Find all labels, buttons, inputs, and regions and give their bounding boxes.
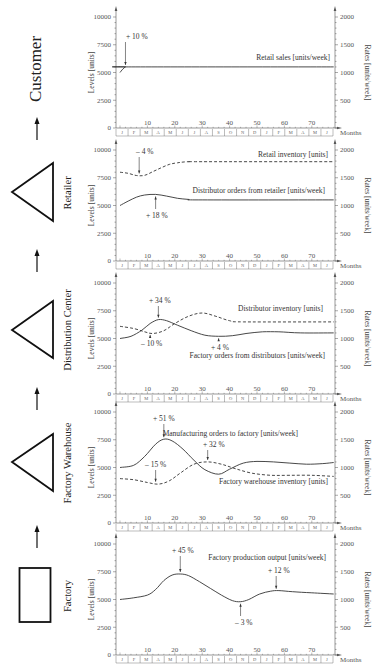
month-letter: M (289, 130, 293, 135)
month-letter: D (253, 263, 257, 268)
x-axis-title: Months (340, 129, 362, 137)
left-tick-label: 2500 (97, 97, 112, 105)
axis-arrow-icon (115, 272, 118, 277)
month-letter: J (326, 130, 328, 135)
chart-panel-distribution-center: 025005000750010000500100015002000Levels … (87, 272, 372, 403)
month-letter: D (253, 396, 257, 401)
series-label: Retail inventory [units] (258, 150, 328, 159)
month-letter: M (289, 657, 293, 662)
month-letter: J (266, 396, 268, 401)
axis-arrow-icon (334, 139, 337, 144)
axis-arrow-icon (115, 6, 118, 11)
chart-panel-retailer: 025005000750010000500100015002000Levels … (87, 139, 372, 270)
month-letter: O (229, 263, 233, 268)
month-letter: O (229, 657, 233, 662)
flow-arrow-icon (35, 249, 40, 272)
axis-arrow-icon (115, 401, 118, 406)
left-axis-title: Levels [units] (87, 447, 96, 488)
month-letter: M (168, 396, 172, 401)
month-letter: A (205, 657, 209, 662)
month-letter: M (168, 525, 172, 530)
month-letter: M (289, 263, 293, 268)
month-letter: J (266, 263, 268, 268)
series-label: Retail sales [units/week] (256, 53, 330, 62)
left-axis-title: Levels [units] (87, 579, 96, 620)
month-letter: M (313, 130, 317, 135)
right-tick-label: 1500 (340, 41, 355, 49)
x-tick-label: 70 (308, 252, 316, 260)
month-letter: J (326, 396, 328, 401)
month-letter: F (133, 396, 136, 401)
right-tick-label: 1000 (340, 202, 355, 210)
series-label: Factory warehouse inventory [units] (219, 477, 328, 486)
month-letter: A (205, 396, 209, 401)
month-letter: F (133, 525, 136, 530)
x-tick-label: 50 (254, 646, 262, 654)
right-tick-label: 1000 (340, 69, 355, 77)
axis-arrow-icon (334, 401, 337, 406)
month-letter: J (266, 525, 268, 530)
month-letter: J (193, 657, 195, 662)
month-letter: M (144, 657, 148, 662)
right-tick-label: 1000 (340, 335, 355, 343)
x-tick-label: 20 (171, 646, 179, 654)
axis-arrow-icon (334, 272, 337, 277)
month-letter: M (313, 657, 317, 662)
chart-panel-factory: 025005000750010000500100015002000Levels … (87, 533, 372, 664)
left-tick-label: 2500 (97, 624, 112, 632)
month-letter: M (168, 263, 172, 268)
axis-arrow-icon (115, 139, 118, 144)
right-axis-title: Rates [units/week] (363, 571, 372, 627)
month-letter: J (193, 396, 195, 401)
annotation-label: – 3 % (234, 618, 253, 627)
x-tick-label: 60 (281, 252, 289, 260)
month-letter: N (241, 657, 245, 662)
month-letter: N (241, 525, 245, 530)
month-letter: A (205, 525, 209, 530)
month-letter: A (301, 396, 305, 401)
diagram-canvas: Customer Retailer Distribution Center (0, 0, 380, 672)
series-label: Factory production output [units/week] (208, 553, 326, 562)
month-letter: J (193, 525, 195, 530)
x-tick-label: 30 (199, 514, 207, 522)
x-tick-label: 10 (144, 385, 152, 393)
month-letter: J (121, 657, 123, 662)
flow-arrow-icon (35, 387, 40, 410)
month-letter: F (277, 525, 280, 530)
annotation-label: + 45 % (172, 546, 194, 555)
month-letter: J (193, 130, 195, 135)
month-letter: N (241, 396, 245, 401)
left-tick-label: 2500 (97, 230, 112, 238)
distribution-center-triangle-icon (12, 301, 53, 358)
left-tick-label: 2500 (97, 492, 112, 500)
month-letter: O (229, 525, 233, 530)
month-letter: S (217, 525, 220, 530)
month-letter: F (133, 657, 136, 662)
x-tick-label: 40 (226, 252, 234, 260)
month-letter: A (157, 396, 161, 401)
month-letter: A (301, 130, 305, 135)
series-label: Factory orders from distributors [units/… (190, 351, 325, 360)
annotation-label: + 10 % (126, 32, 148, 41)
x-tick-label: 10 (144, 514, 152, 522)
series-line (120, 162, 334, 176)
right-axis-title: Rates [units/week] (363, 44, 372, 100)
right-axis-title: Rates [units/week] (363, 310, 372, 366)
flow-arrow-icon (35, 525, 40, 548)
series-label: Distributor inventory [units] (238, 304, 323, 313)
retailer-triangle-icon (12, 163, 53, 221)
factory-warehouse-triangle-icon (12, 434, 53, 491)
x-tick-label: 10 (144, 252, 152, 260)
month-letter: A (157, 263, 161, 268)
left-tick-label: 5000 (97, 464, 112, 472)
series-line (120, 313, 334, 334)
right-tick-label: 2000 (340, 540, 355, 548)
x-tick-label: 20 (171, 514, 179, 522)
right-tick-label: 500 (340, 97, 351, 105)
left-axis-title: Levels [units] (87, 318, 96, 359)
month-letter: M (168, 130, 172, 135)
x-tick-label: 50 (254, 252, 262, 260)
stage-column: Customer Retailer Distribution Center (12, 36, 73, 622)
right-tick-label: 500 (340, 624, 351, 632)
month-letter: F (277, 263, 280, 268)
